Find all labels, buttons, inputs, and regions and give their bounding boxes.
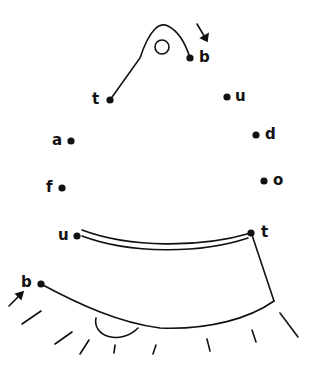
dot-label: a (52, 133, 62, 148)
dot-u (223, 93, 230, 100)
bump (96, 318, 138, 337)
dot-label: u (58, 228, 69, 243)
dot-u (73, 232, 80, 239)
dot-label: t (92, 92, 99, 107)
bottom-curve (41, 284, 274, 328)
dot-t (247, 229, 254, 236)
dot-b (186, 54, 193, 61)
target-icon (155, 40, 169, 54)
dot-label: b (199, 50, 210, 65)
dot-b (37, 280, 44, 287)
dot-f (58, 184, 65, 191)
dot-label: b (21, 275, 32, 290)
dot-a (67, 137, 74, 144)
top-outline (110, 25, 190, 100)
hash-marks (22, 311, 298, 354)
dot-label: t (261, 225, 268, 240)
rim-outer (82, 230, 251, 244)
right-side (252, 235, 274, 301)
dot-label: o (273, 173, 283, 188)
dot-t (106, 96, 113, 103)
dot-label: d (265, 127, 276, 142)
dots-layer (37, 54, 267, 287)
dot-d (252, 131, 259, 138)
dot-label: u (235, 89, 246, 104)
dot-label: f (46, 180, 53, 195)
dot-o (260, 177, 267, 184)
